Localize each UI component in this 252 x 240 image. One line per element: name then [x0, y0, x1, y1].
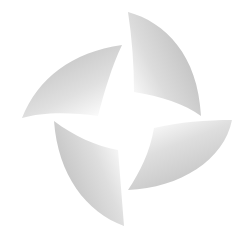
petal-bottom-right: [128, 120, 232, 190]
pinwheel-logo-canvas: [0, 0, 252, 240]
pinwheel-logo-icon: [0, 0, 252, 240]
petal-top-left: [22, 45, 122, 118]
petal-top-right: [128, 12, 201, 116]
petal-bottom-left: [54, 121, 124, 226]
